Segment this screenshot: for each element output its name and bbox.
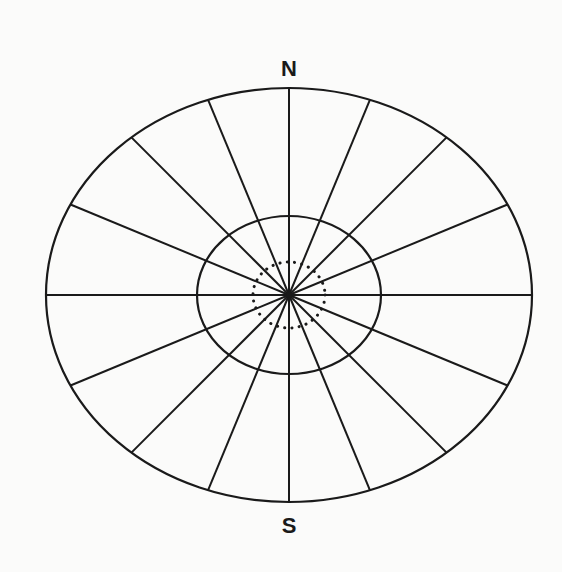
spoke-line xyxy=(289,295,447,453)
center-point xyxy=(286,292,292,298)
spoke-line xyxy=(131,137,289,295)
south-label: S xyxy=(282,515,297,537)
spoke-line xyxy=(289,137,447,295)
polar-grid-diagram xyxy=(0,0,562,572)
north-label: N xyxy=(281,58,297,80)
